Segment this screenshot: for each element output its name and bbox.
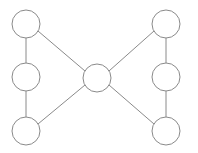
edge-top-left-to-center xyxy=(38,31,85,71)
bottom-right-node-circle[interactable] xyxy=(152,117,180,145)
middle-right-node[interactable] xyxy=(152,63,180,91)
graph-diagram xyxy=(0,0,198,153)
edge-center-to-bottom-right xyxy=(109,85,154,124)
node-layer xyxy=(12,10,180,145)
top-right-node[interactable] xyxy=(152,10,180,38)
middle-left-node[interactable] xyxy=(12,63,40,91)
center-hub-node[interactable] xyxy=(83,64,111,92)
top-left-node-circle[interactable] xyxy=(12,10,40,38)
edge-center-to-top-right xyxy=(109,31,154,71)
bottom-left-node[interactable] xyxy=(12,117,40,145)
middle-left-node-circle[interactable] xyxy=(12,63,40,91)
bottom-left-node-circle[interactable] xyxy=(12,117,40,145)
top-right-node-circle[interactable] xyxy=(152,10,180,38)
middle-right-node-circle[interactable] xyxy=(152,63,180,91)
edge-bottom-left-to-center xyxy=(38,85,85,124)
center-hub-node-circle[interactable] xyxy=(83,64,111,92)
bottom-right-node[interactable] xyxy=(152,117,180,145)
top-left-node[interactable] xyxy=(12,10,40,38)
